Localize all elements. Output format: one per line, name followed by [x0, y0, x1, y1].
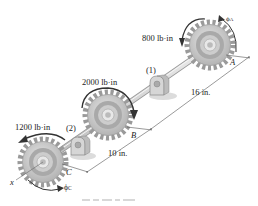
phi-a-subscript: A [230, 17, 234, 22]
axis-label-x: x [10, 178, 14, 187]
gear-a [187, 22, 233, 68]
bearing-1 [150, 75, 169, 95]
phi-c-subscript: C [68, 185, 72, 191]
torque-arrowhead-c [18, 135, 28, 143]
torque-label-a: 800 lb·in [142, 34, 173, 43]
bearing-label-1: (1) [146, 66, 156, 75]
shaft-gear-diagram [0, 0, 258, 206]
angle-label-phi-c: ϕC [64, 184, 72, 192]
angle-label-phi-a: ϕA [226, 16, 233, 23]
point-label-a: A [230, 58, 235, 67]
torque-arrowhead-b [130, 110, 138, 120]
point-label-c: C [66, 168, 72, 177]
torque-arrow-c [24, 134, 65, 140]
dimension-label-10in: 10 in. [108, 149, 127, 158]
bearing-label-2: (2) [66, 124, 76, 133]
torque-label-c: 1200 lb·in [15, 123, 50, 132]
dimension-label-16in: 16 in. [191, 88, 210, 97]
faint-caption-remnant [82, 199, 162, 202]
torque-label-b: 2000 lb·in [82, 78, 117, 87]
bearing-2 [71, 136, 90, 155]
point-label-b: B [131, 131, 136, 140]
gear-b [85, 92, 131, 138]
torque-arrowhead-a [179, 38, 185, 47]
phi-c-arrowhead [57, 185, 64, 192]
